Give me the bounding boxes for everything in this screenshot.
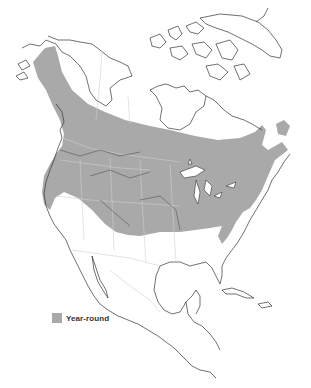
legend: Year-round: [52, 313, 109, 323]
legend-swatch-year-round: [52, 313, 62, 323]
range-map: [0, 0, 311, 388]
year-round-range-area: [33, 46, 288, 244]
legend-label-year-round: Year-round: [66, 314, 109, 323]
newfoundland-range-patch: [276, 120, 290, 136]
